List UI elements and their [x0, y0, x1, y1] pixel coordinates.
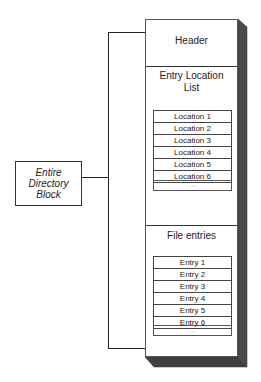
label-line-3: Block [16, 189, 81, 200]
file-entries-divider [146, 225, 237, 226]
entry-row: Entry 5 [154, 305, 231, 317]
entry-row: Entry 4 [154, 293, 231, 305]
entire-directory-block-label: Entire Directory Block [15, 161, 82, 206]
location-list: Location 1 Location 2 Location 3 Locatio… [153, 110, 232, 183]
header-divider [146, 66, 237, 67]
entry-location-title-line-1: Entry Location [146, 70, 237, 82]
location-row: Location 1 [154, 111, 231, 123]
location-row: Location 2 [154, 123, 231, 135]
file-entries-title: File entries [146, 230, 237, 242]
label-connector-line [82, 177, 109, 178]
header-section-title: Header [146, 35, 237, 47]
directory-block: Header Entry Location List Location 1 Lo… [145, 19, 238, 357]
location-row: Location 4 [154, 147, 231, 159]
entry-row: Entry 2 [154, 269, 231, 281]
bracket-vertical-line [108, 32, 109, 349]
location-row: Location 3 [154, 135, 231, 147]
entry-location-title-line-2: List [146, 82, 237, 94]
label-line-2: Directory [16, 178, 81, 189]
location-ellipsis: ... [153, 180, 232, 191]
location-row: Location 5 [154, 159, 231, 171]
entry-row: Entry 1 [154, 257, 231, 269]
entry-row: Entry 3 [154, 281, 231, 293]
entry-ellipsis: ... [153, 325, 232, 336]
entry-list: Entry 1 Entry 2 Entry 3 Entry 4 Entry 5 … [153, 256, 232, 329]
label-line-1: Entire [16, 167, 81, 178]
